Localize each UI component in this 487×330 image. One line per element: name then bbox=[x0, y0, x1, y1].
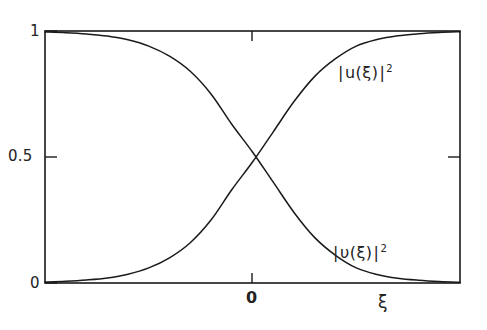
v-label-open-bar: | bbox=[332, 243, 340, 262]
figure-container: 1 0.5 0 0 ξ |u(ξ)|2 |υ(ξ)|2 bbox=[0, 0, 487, 330]
plot-canvas bbox=[0, 0, 487, 330]
y-tick-label-0-5: 0.5 bbox=[8, 147, 32, 165]
curve-u-squared bbox=[45, 32, 460, 282]
x-axis-label: ξ bbox=[378, 292, 387, 312]
curve-v-squared bbox=[45, 32, 460, 282]
curve-label-v: |υ(ξ)|2 bbox=[332, 243, 387, 262]
v-label-exponent: 2 bbox=[380, 243, 386, 254]
plot-frame bbox=[45, 31, 460, 283]
y-tick-label-0: 0 bbox=[30, 274, 40, 292]
x-tick-label-0: 0 bbox=[246, 288, 257, 307]
u-label-open-bar: | bbox=[337, 63, 345, 82]
y-tick-label-1: 1 bbox=[30, 22, 40, 40]
u-label-exponent: 2 bbox=[386, 63, 392, 74]
curve-label-u: |u(ξ)|2 bbox=[337, 63, 393, 82]
v-label-body: υ(ξ) bbox=[340, 243, 373, 262]
u-label-body: u(ξ) bbox=[345, 63, 379, 82]
